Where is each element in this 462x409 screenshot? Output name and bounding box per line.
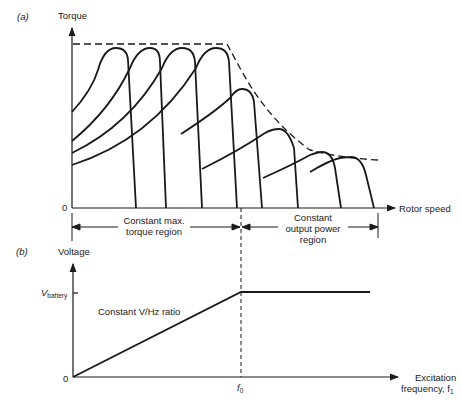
excitation-frequency-label: Excitation frequency, f1	[401, 372, 456, 397]
origin-a-label: 0	[62, 202, 67, 213]
f0-tick-label: f0	[237, 382, 243, 396]
constant-v-hz-label: Constant V/Hz ratio	[98, 306, 180, 317]
constant-torque-region-label: Constant max. torque region	[118, 215, 190, 237]
torque-speed-curves	[72, 48, 374, 208]
origin-b-label: 0	[63, 373, 68, 384]
voltage-axis-label: Voltage	[58, 246, 90, 257]
voltage-profile	[73, 292, 370, 377]
panel-a-tag: (a)	[17, 11, 29, 22]
torque-axis-label: Torque	[58, 10, 87, 21]
voltage-axis	[73, 264, 398, 377]
v-battery-label: Vbattery	[41, 287, 67, 301]
diagram-canvas	[0, 0, 462, 409]
panel-b-tag: (b)	[16, 246, 28, 257]
rotor-speed-label: Rotor speed	[399, 203, 451, 214]
constant-power-region-label: Constant output power region	[278, 212, 348, 245]
